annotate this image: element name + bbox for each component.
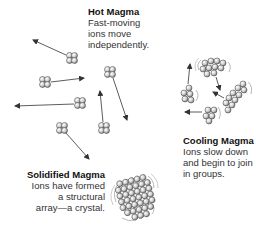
crystal-lattice-icon xyxy=(111,173,159,223)
hot-magma-ions xyxy=(15,40,127,159)
hot-magma-title: Hot Magma xyxy=(88,6,149,17)
ion-cluster-icon xyxy=(105,67,116,78)
cooling-magma-description: Ions slow down and begin to join in grou… xyxy=(183,146,254,179)
ion-cluster-icon xyxy=(75,98,86,109)
ion-cluster-icon xyxy=(67,53,78,64)
ion-cluster-icon xyxy=(99,123,110,134)
solidified-magma-label: Solidified Magma Ions have formed a stru… xyxy=(26,169,105,213)
solidified-magma-title: Solidified Magma xyxy=(26,169,105,180)
magma-crystallization-diagram: Hot Magma Fast-moving ions move independ… xyxy=(0,0,256,236)
cooling-magma-groups xyxy=(181,58,252,124)
solidified-magma-description: Ions have formed a structural array—a cr… xyxy=(26,180,105,213)
hot-magma-label: Hot Magma Fast-moving ions move independ… xyxy=(88,6,149,50)
hot-magma-description: Fast-moving ions move independently. xyxy=(88,17,149,50)
ion-cluster-icon xyxy=(57,123,68,134)
ion-cluster-icon xyxy=(40,77,51,88)
cooling-magma-label: Cooling Magma Ions slow down and begin t… xyxy=(183,135,254,179)
cooling-magma-title: Cooling Magma xyxy=(183,135,254,146)
